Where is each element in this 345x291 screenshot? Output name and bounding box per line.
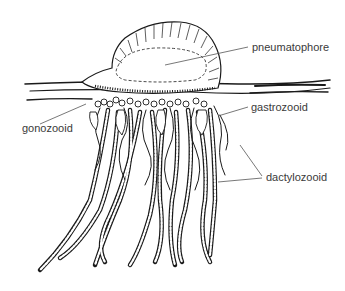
label-pneumatophore: pneumatophore	[252, 42, 329, 53]
leader-dactylozooid-a	[240, 145, 262, 176]
leader-dactylozooid-b	[218, 178, 262, 182]
diagram-canvas: pneumatophore gastrozooid gonozooid dact…	[0, 0, 345, 291]
leader-gastrozooid	[218, 107, 248, 116]
label-gastrozooid: gastrozooid	[251, 102, 308, 113]
label-gonozooid: gonozooid	[22, 123, 73, 134]
leader-gonozooid	[40, 104, 86, 124]
label-dactylozooid: dactylozooid	[266, 172, 327, 183]
